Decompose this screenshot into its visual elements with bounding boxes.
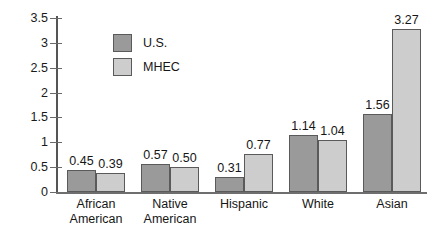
bar-value-label: 1.04 — [314, 125, 351, 138]
bar — [67, 170, 96, 192]
legend-label: MHEC — [143, 61, 180, 74]
y-tick-label: 3.5 — [0, 12, 48, 24]
bar — [170, 167, 199, 192]
bar — [141, 164, 170, 192]
bar — [96, 173, 125, 192]
y-tick-label: 2 — [0, 87, 48, 99]
y-tick-label: 3 — [0, 37, 48, 49]
legend-label: U.S. — [143, 37, 167, 50]
bar-value-label: 3.27 — [388, 14, 425, 27]
category-label-line: American — [120, 212, 220, 227]
y-tick-label: 0.5 — [0, 161, 48, 173]
y-tick-label: 1.5 — [0, 111, 48, 123]
legend-swatch — [113, 58, 132, 76]
y-tick-label: 0 — [0, 186, 48, 198]
y-tick-label: 2.5 — [0, 62, 48, 74]
category-label-line: Asian — [342, 197, 434, 212]
bar — [289, 135, 318, 192]
chart-legend: U.S.MHEC — [113, 31, 180, 79]
bar-value-label: 0.31 — [211, 162, 248, 175]
bar-chart: 00.511.522.533.5 0.450.390.570.500.310.7… — [0, 0, 434, 236]
legend-swatch — [113, 34, 132, 52]
bar — [363, 114, 392, 192]
x-axis-line — [56, 192, 427, 194]
bar — [392, 29, 421, 192]
bar — [244, 154, 273, 192]
y-tick-label: 1 — [0, 136, 48, 148]
bar-value-label: 0.39 — [92, 158, 129, 171]
legend-item: MHEC — [113, 55, 180, 79]
x-axis-category-label: Asian — [342, 197, 434, 212]
bar-value-label: 1.56 — [359, 99, 396, 112]
legend-item: U.S. — [113, 31, 180, 55]
bar-value-label: 0.77 — [240, 139, 277, 152]
bar — [215, 177, 244, 192]
bar — [318, 140, 347, 192]
bar-value-label: 0.50 — [166, 152, 203, 165]
